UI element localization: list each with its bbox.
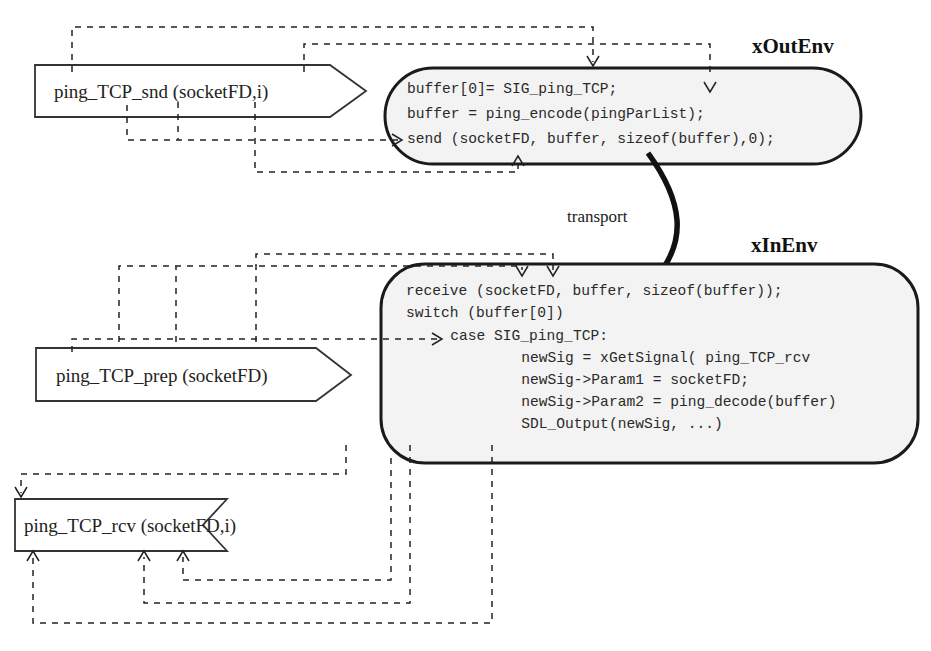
xoutenv-group: xOutEnv buffer[0]= SIG_ping_TCP; buffer … [385,34,861,164]
signal-rcv-label: ping_TCP_rcv (socketFD,i) [24,515,236,537]
signal-prep-label: ping_TCP_prep (socketFD) [56,365,268,387]
xinenv-code-line: newSig->Param1 = socketFD; [460,372,749,388]
signal-ping-tcp-rcv: ping_TCP_rcv (socketFD,i) [15,499,236,551]
xinenv-code-line: case SIG_ping_TCP: [424,328,608,344]
signal-ping-tcp-prep: ping_TCP_prep (socketFD) [36,348,351,401]
xoutenv-code-line: buffer[0]= SIG_ping_TCP; [407,81,617,97]
signal-ping-tcp-snd: ping_TCP_snd (socketFD,i) [35,65,366,117]
transport-label: transport [567,207,628,226]
signal-send-label: ping_TCP_snd (socketFD,i) [54,81,268,103]
xoutenv-code-line: buffer = ping_encode(pingParList); [407,106,705,122]
xinenv-code-line: newSig->Param2 = ping_decode(buffer) [460,394,837,410]
xinenv-code-line: newSig = xGetSignal( ping_TCP_rcv [460,350,811,366]
xinenv-title: xInEnv [751,233,818,257]
xinenv-group: xInEnv receive (socketFD, buffer, sizeof… [381,233,918,463]
xinenv-code-line: SDL_Output(newSig, ...) [460,416,723,432]
xinenv-code-line: receive (socketFD, buffer, sizeof(buffer… [406,283,783,299]
arrow-up-icon [138,551,150,561]
dashed-route [21,445,346,493]
xoutenv-title: xOutEnv [752,34,834,58]
xinenv-code-line: switch (buffer[0]) [406,305,564,321]
xoutenv-code-line: send (socketFD, buffer, sizeof(buffer),0… [407,131,775,147]
diagram-canvas: xOutEnv buffer[0]= SIG_ping_TCP; buffer … [0,0,931,651]
